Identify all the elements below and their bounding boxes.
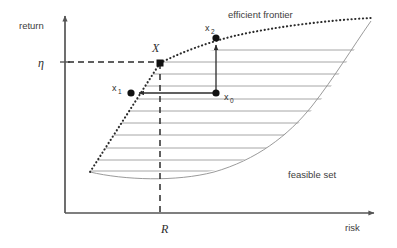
point-label-x0: x 0	[224, 92, 234, 104]
point-label-x0-subscript: 0	[230, 97, 234, 104]
point-marker-x1	[127, 89, 134, 96]
x-axis-label: risk	[345, 222, 360, 233]
point-label-X: X	[151, 41, 160, 55]
efficient-frontier-diagram: return risk η R efficient frontier feasi…	[0, 0, 397, 248]
point-marker-x0	[212, 89, 219, 96]
y-axis-label: return	[19, 20, 44, 31]
point-marker-x2	[212, 34, 219, 41]
diagram-figure: return risk η R efficient frontier feasi…	[0, 0, 397, 248]
point-label-x0-base: x	[224, 92, 229, 102]
point-label-x1-base: x	[112, 83, 117, 93]
eta-tick-label: η	[38, 56, 44, 70]
feasible-set-label: feasible set	[288, 169, 336, 180]
point-marker-X	[157, 60, 164, 67]
R-tick-label: R	[160, 222, 169, 236]
lower-left-boundary-curve	[90, 63, 160, 172]
point-label-x1: x 1	[112, 83, 122, 95]
point-label-x1-subscript: 1	[118, 88, 122, 95]
point-label-x2-subscript: 2	[211, 28, 215, 35]
efficient-frontier-curve	[160, 18, 371, 63]
point-label-x2-base: x	[205, 23, 210, 33]
point-label-x2: x 2	[205, 23, 215, 35]
feasible-set-hatching	[60, 50, 390, 171]
efficient-frontier-label: efficient frontier	[228, 9, 293, 20]
